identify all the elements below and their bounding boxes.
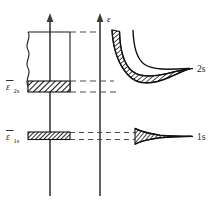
energy-axis-label: ε bbox=[107, 14, 111, 24]
energy-band-diagram: ε ε 2s ε 1s bbox=[0, 0, 223, 200]
right-label-2s: 2s bbox=[197, 64, 206, 74]
level-2s-band bbox=[28, 81, 70, 92]
level-1s-subscript: 1s bbox=[14, 137, 20, 144]
level-2s-subscript: 2s bbox=[14, 87, 20, 94]
figure-root: ε ε 2s ε 1s bbox=[0, 0, 223, 200]
level-1s-label: ε bbox=[6, 132, 10, 142]
level-2s-label: ε bbox=[6, 82, 10, 92]
right-label-1s: 1s bbox=[197, 132, 206, 142]
level-1s-band bbox=[28, 132, 70, 140]
